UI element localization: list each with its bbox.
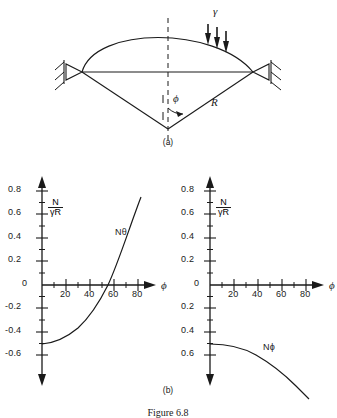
ntheta-curve-label: Nθ [115, 228, 127, 237]
y-axis-denominator: γR [216, 207, 231, 217]
y-tick-label-0: 0.8 [8, 185, 21, 194]
y-tick-label-3: 0.2 [8, 255, 21, 264]
x-axis-title-right: ϕ [329, 280, 335, 291]
arch-diagram [0, 0, 337, 150]
figure-caption: Figure 6.8 [118, 407, 218, 418]
y-axis-arrow-down [206, 374, 214, 386]
support-left-hatch-1 [55, 62, 64, 70]
gamma-load-label: γ [213, 6, 218, 17]
x-tick-label-3: 80 [132, 290, 142, 299]
radius-label: R [211, 97, 218, 108]
x-axis-arrow [144, 281, 156, 289]
y-tick-label-7: 0.6 [181, 349, 194, 358]
support-right-hatch-3 [271, 82, 281, 90]
y-tick-label-1: 0.6 [8, 208, 21, 217]
y-axis-arrow-down [38, 374, 46, 386]
angle-arrow-head [176, 111, 183, 117]
support-left-triangle [66, 64, 82, 80]
nphi-curve [210, 344, 309, 399]
y-tick-label-1: 0.6 [181, 208, 194, 217]
radius-line-left [82, 72, 168, 129]
ntheta-curve [42, 197, 141, 344]
y-axis-numerator: N [216, 198, 231, 207]
nphi-curve-label: Nϕ [263, 343, 275, 352]
y-axis-arrow-up [38, 176, 46, 188]
chart-left-ntheta [4, 168, 174, 393]
y-tick-label-3: 0.2 [181, 255, 194, 264]
x-axis-arrow [312, 281, 324, 289]
y-tick-label-5: 0.2 [181, 302, 194, 311]
y-tick-label-5: -0.2 [5, 302, 21, 311]
y-tick-label-4: 0 [194, 279, 199, 288]
y-axis-title-left: N γR [48, 198, 63, 218]
x-axis-title-left: ϕ [161, 280, 167, 291]
x-tick-label-3: 80 [300, 290, 310, 299]
support-right-triangle [253, 64, 269, 80]
x-tick-label-2: 60 [276, 290, 286, 299]
y-tick-label-2: 0.4 [181, 232, 194, 241]
y-axis-denominator: γR [48, 207, 63, 217]
support-left-hatch-2 [55, 72, 64, 80]
panel-a-caption: (a) [152, 137, 184, 147]
support-right-hatch-1 [271, 62, 281, 70]
y-axis-arrow-up [206, 176, 214, 188]
panel-b-caption: (b) [152, 385, 184, 395]
y-tick-label-6: 0.4 [181, 326, 194, 335]
x-tick-label-0: 20 [60, 290, 70, 299]
angle-phi-label: ϕ [173, 93, 179, 104]
y-tick-label-0: 0.8 [181, 185, 194, 194]
x-tick-label-0: 20 [228, 290, 238, 299]
x-tick-label-2: 60 [108, 290, 118, 299]
x-tick-label-1: 40 [84, 290, 94, 299]
y-tick-label-2: 0.4 [8, 232, 21, 241]
x-tick-label-1: 40 [252, 290, 262, 299]
y-axis-numerator: N [48, 198, 63, 207]
y-tick-label-4: 0 [22, 279, 27, 288]
support-left-hatch-3 [55, 82, 64, 90]
y-axis-title-right: N γR [216, 198, 231, 218]
load-arrows [205, 24, 229, 53]
figure-container: γ R ϕ (a) [0, 0, 337, 418]
y-tick-label-6: -0.4 [5, 326, 21, 335]
support-right-hatch-2 [271, 72, 281, 80]
y-tick-label-7: -0.6 [5, 349, 21, 358]
